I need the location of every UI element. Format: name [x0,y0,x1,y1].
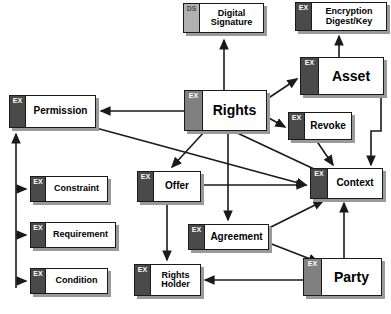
node-label-rights_holder: RightsHolder [151,265,200,295]
node-label-line1-requirement: Requirement [53,230,108,239]
node-tag-asset: EX [301,58,319,94]
node-tag-encryption: EX [296,3,312,30]
node-label-line1-offer: Offer [165,181,189,191]
node-label-context: Context [328,169,382,198]
node-digital_signature[interactable]: DSDigitalSignature [183,3,264,33]
edge-rights-to-offer [172,131,205,167]
node-label-requirement: Requirement [46,223,115,247]
node-tag-agreement: EX [189,225,205,249]
node-label-wrap-encryption: EncryptionDigest/Key [325,7,372,26]
edge-permission-to-context [96,128,306,185]
node-tag-rights_holder: EX [135,265,151,295]
node-asset[interactable]: EXAsset [300,57,384,95]
node-label-line1-permission: Permission [34,106,88,116]
diagram-canvas: DSDigitalSignatureEXEncryptionDigest/Key… [0,0,391,314]
node-label-wrap-digital_signature: DigitalSignature [211,9,253,28]
node-label-line1-context: Context [336,178,373,188]
node-label-line1-revoke: Revoke [310,121,346,131]
node-label-line2-rights_holder: Holder [161,279,190,289]
node-label-rights: Rights [203,91,266,130]
node-tag-requirement: EX [31,223,46,247]
node-permission[interactable]: EXPermission [9,95,96,128]
edge-asset-to-context [371,95,381,165]
node-label-encryption: EncryptionDigest/Key [312,3,386,30]
node-label-line1-party: Party [334,270,369,285]
edge-revoke-to-context [316,140,333,165]
node-constraint[interactable]: EXConstraint [30,176,108,202]
node-label-asset: Asset [319,58,383,94]
node-context[interactable]: EXContext [310,168,383,199]
node-label-line1-constraint: Constraint [54,184,99,193]
node-label-line2-digital_signature: Signature [211,17,253,27]
node-rights_holder[interactable]: EXRightsHolder [134,264,201,296]
node-tag-constraint: EX [31,177,46,201]
node-label-line1-agreement: Agreement [210,232,262,242]
node-label-wrap-rights_holder: RightsHolder [161,271,190,290]
node-label-party: Party [322,259,381,295]
node-label-permission: Permission [26,96,95,127]
node-label-revoke: Revoke [305,113,351,139]
node-requirement[interactable]: EXRequirement [30,222,116,248]
node-label-offer: Offer [154,172,200,201]
edge-rights-to-revoke [267,117,285,127]
node-label-digital_signature: DigitalSignature [200,4,263,32]
node-tag-party: EX [304,259,322,295]
node-label-condition: Condition [46,269,107,293]
node-party[interactable]: EXParty [303,258,382,296]
node-tag-context: EX [311,169,328,198]
node-tag-revoke: EX [289,113,305,139]
node-revoke[interactable]: EXRevoke [288,112,352,140]
node-encryption[interactable]: EXEncryptionDigest/Key [295,2,387,31]
node-label-line2-encryption: Digest/Key [326,16,373,26]
node-agreement[interactable]: EXAgreement [188,224,269,250]
node-tag-condition: EX [31,269,46,293]
node-label-line1-asset: Asset [332,69,370,84]
edge-agreement-to-context [269,201,323,228]
node-label-line1-rights: Rights [213,103,257,118]
node-label-agreement: Agreement [205,225,268,249]
node-tag-digital_signature: DS [184,4,200,32]
node-tag-rights: EX [185,91,203,130]
node-condition[interactable]: EXCondition [30,268,108,294]
node-rights[interactable]: EXRights [184,90,267,131]
node-offer[interactable]: EXOffer [137,171,201,202]
node-tag-offer: EX [138,172,154,201]
edge-rights-to-asset [267,79,297,99]
node-label-line1-condition: Condition [56,276,98,285]
node-tag-permission: EX [10,96,26,127]
node-label-constraint: Constraint [46,177,107,201]
